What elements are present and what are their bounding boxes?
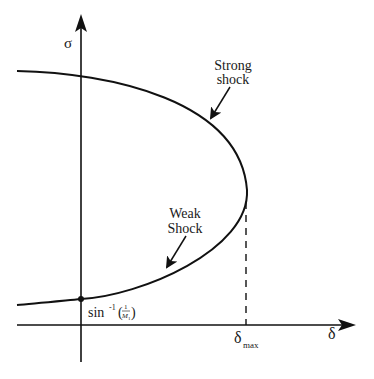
svg-text:sin: sin (88, 305, 104, 320)
sigma-label: σ (64, 35, 72, 51)
strong-shock-label-2: shock (217, 72, 250, 87)
intercept-label: sin -1 ( 1 M 1 ) (88, 303, 136, 321)
strong-shock-label-1: Strong (214, 58, 251, 73)
delta-label: δ (328, 325, 336, 342)
svg-text:-1: -1 (109, 303, 116, 312)
delta-max-label: δ max (234, 329, 259, 350)
weak-shock-arrow-icon (167, 236, 186, 267)
svg-text:): ) (131, 305, 136, 321)
shock-polar-curve (17, 71, 247, 305)
svg-text:1: 1 (124, 303, 128, 311)
weak-shock-label-2: Shock (168, 221, 203, 236)
intercept-point (78, 296, 84, 302)
svg-text:δ: δ (234, 329, 242, 346)
shock-polar-diagram: σ δ Strong shock Weak Shock sin -1 ( 1 M… (0, 0, 374, 379)
weak-shock-label-1: Weak (169, 206, 201, 221)
strong-shock-arrow-icon (211, 87, 230, 118)
svg-text:max: max (243, 340, 259, 350)
